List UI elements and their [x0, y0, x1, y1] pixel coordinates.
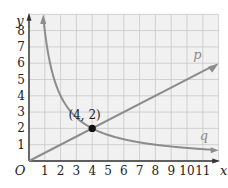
y-tick-label: 5 [17, 73, 25, 87]
x-tick-label: 5 [104, 164, 112, 178]
x-axis-label: x [220, 163, 228, 178]
y-tick-label: 3 [17, 105, 25, 119]
x-tick-label: 4 [88, 164, 96, 178]
line-p-label: p [193, 47, 202, 62]
x-tick-label: 9 [167, 164, 175, 178]
y-tick-label: 2 [17, 121, 25, 135]
x-tick-label: 6 [120, 164, 128, 178]
curve-q-label: q [200, 128, 208, 143]
graph-chart: (4, 2)123456789101112345678Oxypq [0, 0, 228, 188]
x-tick-label: 8 [152, 164, 160, 178]
x-tick-label: 3 [73, 164, 81, 178]
x-tick-label: 11 [195, 164, 210, 178]
y-tick-label: 6 [17, 56, 25, 70]
y-tick-label: 4 [17, 89, 25, 103]
origin-label: O [15, 163, 26, 178]
y-axis-label: y [15, 13, 24, 28]
y-tick-label: 1 [17, 138, 25, 152]
x-tick-label: 7 [136, 164, 144, 178]
x-tick-label: 1 [41, 164, 49, 178]
intersection-label: (4, 2) [69, 108, 101, 122]
intersection-point [89, 125, 96, 132]
y-tick-label: 7 [17, 40, 25, 54]
x-tick-label: 10 [179, 164, 194, 178]
x-tick-label: 2 [57, 164, 65, 178]
